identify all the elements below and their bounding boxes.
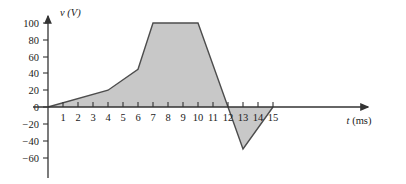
x-tick-label: 9 (180, 112, 185, 123)
x-tick-label: 12 (223, 112, 234, 123)
y-tick-label: 60 (29, 52, 40, 63)
y-tick-label: 40 (29, 68, 40, 79)
x-tick-label: 14 (253, 112, 264, 123)
chart-figure: 100 80 60 40 20 0 −20 −40 −60 v (V) (0, 0, 406, 184)
x-tick-label: 3 (90, 112, 95, 123)
x-tick-label: 4 (105, 112, 111, 123)
x-axis-unit: (ms) (352, 115, 372, 127)
x-tick-label: 6 (135, 112, 140, 123)
y-tick-label: 100 (23, 18, 39, 29)
x-tick-label: 10 (193, 112, 204, 123)
plot-area (48, 23, 273, 149)
y-axis-title: v (V) (60, 7, 81, 19)
y-tick-label: −60 (23, 153, 39, 164)
waveform-fill (48, 23, 273, 149)
x-tick-label: 5 (120, 112, 125, 123)
y-axis: 100 80 60 40 20 0 −20 −40 −60 v (V) (23, 7, 82, 178)
x-tick-label: 11 (208, 112, 218, 123)
x-tick-label: 1 (60, 112, 65, 123)
voltage-waveform-chart: 100 80 60 40 20 0 −20 −40 −60 v (V) (0, 0, 406, 184)
x-axis-tick-labels: 1 2 3 4 5 6 7 8 9 10 11 12 13 14 15 (60, 112, 278, 123)
x-tick-label: 2 (75, 112, 80, 123)
y-tick-label: −40 (23, 136, 39, 147)
y-tick-label: −20 (23, 119, 39, 130)
x-tick-label: 15 (268, 112, 279, 123)
y-tick-label: 80 (29, 35, 40, 46)
y-axis-tick-labels: 100 80 60 40 20 0 −20 −40 −60 (23, 18, 39, 164)
y-tick-label: 20 (29, 85, 40, 96)
y-axis-ticks (43, 23, 48, 158)
x-tick-label: 13 (238, 112, 249, 123)
x-axis-title: t (ms) (347, 115, 372, 127)
x-tick-label: 8 (165, 112, 170, 123)
x-tick-label: 7 (150, 112, 155, 123)
